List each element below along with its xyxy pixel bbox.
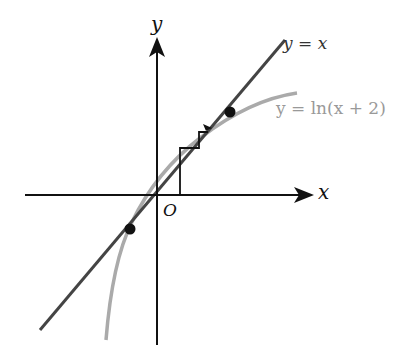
line-label: y = x <box>283 33 327 53</box>
y-axis-label: y <box>151 12 162 36</box>
intersection-point-left <box>125 224 136 235</box>
origin-label: O <box>163 200 177 220</box>
identity-line <box>40 40 285 330</box>
x-axis-label: x <box>318 180 329 204</box>
intersection-point-right <box>225 107 236 118</box>
curve-label: y = ln(x + 2) <box>276 98 386 118</box>
figure: y x O y = x y = ln(x + 2) <box>0 0 397 360</box>
graph-canvas <box>0 0 397 360</box>
